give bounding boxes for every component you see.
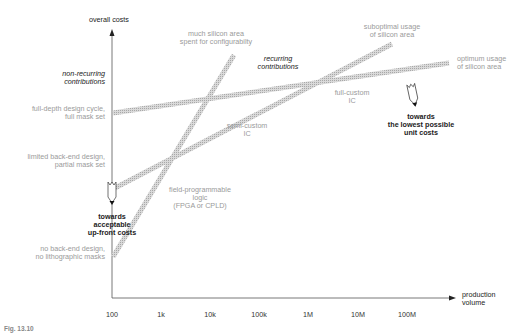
y-axis-label: overall costs xyxy=(89,16,129,24)
x-axis xyxy=(112,296,456,301)
x-tick-label: 10M xyxy=(351,310,365,319)
x-tick-label: 1k xyxy=(157,310,165,319)
semi-custom-label: semi-customIC xyxy=(222,122,272,138)
no-backend-label: no back-end design,no lithographic masks xyxy=(35,245,105,261)
limited-backend-label: limited back-end design,partial mask set xyxy=(27,153,105,169)
recurring-label: recurringcontributions xyxy=(248,55,308,71)
x-tick-label: 100 xyxy=(106,310,118,319)
x-tick-label: 100k xyxy=(251,310,267,319)
non-recurring-label: non-recurringcontributions xyxy=(62,70,105,86)
towards-unit-label: towardsthe lowest possibleunit costs xyxy=(383,113,459,137)
x-tick-label: 10k xyxy=(204,310,216,319)
x-tick-label: 100M xyxy=(398,310,416,319)
much-silicon-label: much silicon areaspent for configurabilt… xyxy=(166,30,266,46)
x-tick-label: 1M xyxy=(303,310,313,319)
full-depth-label: full-depth design cycle,full mask set xyxy=(32,105,105,121)
down-arrow-icon xyxy=(407,83,420,107)
optimum-label: optimum usageof silicon area xyxy=(457,55,506,71)
y-axis xyxy=(110,29,115,298)
down-arrow-icon xyxy=(108,182,116,205)
fpga-label: field-programmablelogic(FPGA or CPLD) xyxy=(160,186,240,210)
full-custom-label: full-customIC xyxy=(327,89,377,105)
towards-upfront-label: towardsacceptableup-front costs xyxy=(84,213,140,237)
suboptimal-label: suboptimal usageof silicon area xyxy=(352,23,432,39)
figure-caption: Fig. 13.10 xyxy=(4,325,34,332)
x-axis-label-line2: volume xyxy=(462,299,485,307)
